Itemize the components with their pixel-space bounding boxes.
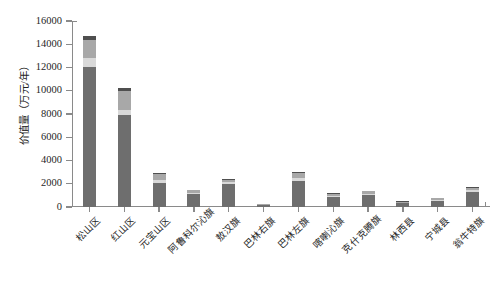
bar-segment (327, 197, 340, 207)
bar-stack (83, 36, 96, 207)
y-axis-tick-label: 16000 (2, 16, 62, 26)
y-axis-tick-label: 6000 (2, 132, 62, 142)
x-axis-tick (298, 207, 299, 212)
bar-segment (222, 184, 235, 207)
y-axis-tick-label: 4000 (2, 155, 62, 165)
x-axis-label: 克什克腾旗 (340, 214, 382, 256)
x-axis-label: 红山区 (96, 214, 138, 256)
x-axis-label: 宁城县 (410, 214, 452, 256)
x-axis-tick (367, 207, 368, 212)
x-axis-tick (263, 207, 264, 212)
x-axis-tick (228, 207, 229, 212)
x-axis-label: 巴林右旗 (236, 214, 278, 256)
x-axis-label: 巴林左旗 (270, 214, 312, 256)
bar-segment (466, 192, 479, 207)
bar-segment (292, 181, 305, 207)
bar-stack (431, 198, 444, 207)
bar-stack (466, 187, 479, 207)
bar-segment (83, 58, 96, 67)
bar-stack (292, 172, 305, 207)
x-axis-label: 阿鲁科尔沁旗 (166, 214, 208, 256)
x-axis-tick (333, 207, 334, 212)
bar-segment (362, 195, 375, 207)
x-axis-tick (437, 207, 438, 212)
y-axis-tick-label: 14000 (2, 39, 62, 49)
bar-stack (187, 190, 200, 207)
bar-segment (118, 115, 131, 207)
x-axis-tick (402, 207, 403, 212)
x-axis-label: 林西县 (375, 214, 417, 256)
bar-stack (153, 173, 166, 207)
x-axis-label: 松山区 (61, 214, 103, 256)
y-axis-tick-label: 0 (2, 202, 62, 212)
x-axis-label: 元宝山区 (131, 214, 173, 256)
bar-segment (187, 194, 200, 207)
y-axis-tick-label: 12000 (2, 62, 62, 72)
bar-segment (83, 40, 96, 59)
bar-segment (153, 183, 166, 207)
x-axis-label: 敖汉旗 (201, 214, 243, 256)
bar-stack (222, 179, 235, 207)
x-axis-label: 喀喇沁旗 (305, 214, 347, 256)
x-axis-tick (193, 207, 194, 212)
bar-stack (118, 88, 131, 207)
x-axis-tick (124, 207, 125, 212)
bars-layer (72, 21, 490, 207)
bar-segment (83, 67, 96, 207)
bar-segment (118, 91, 131, 110)
y-axis-tick-label: 8000 (2, 109, 62, 119)
bar-stack (327, 193, 340, 207)
bar-stack (362, 191, 375, 207)
x-axis-label: 翁牛特旗 (445, 214, 487, 256)
stacked-bar-chart: 价值量（万元/年） 160001400012000100008000600040… (0, 0, 502, 286)
y-axis-tick-label: 2000 (2, 178, 62, 188)
y-axis-tick-label: 10000 (2, 85, 62, 95)
x-axis-tick (89, 207, 90, 212)
x-axis-tick (472, 207, 473, 212)
x-axis-tick (158, 207, 159, 212)
